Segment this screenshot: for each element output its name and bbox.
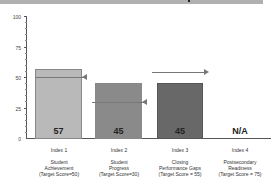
bar-value-label: 45 xyxy=(158,126,202,136)
y-minor-tick xyxy=(25,132,27,133)
x-label-index-2: Index 2 Student Progress (Target Score=3… xyxy=(89,147,149,177)
y-minor-tick xyxy=(25,65,27,66)
y-minor-tick xyxy=(25,101,27,102)
bar-index-1: 57 xyxy=(35,69,82,139)
y-minor-tick xyxy=(25,83,27,84)
y-minor-tick xyxy=(25,59,27,60)
y-minor-tick xyxy=(25,89,27,90)
target-line-index-1 xyxy=(35,77,85,78)
y-tick-label: 100 xyxy=(4,14,21,20)
y-minor-tick xyxy=(25,40,27,41)
y-minor-tick xyxy=(25,34,27,35)
y-tick-label: 0 xyxy=(4,136,21,142)
target-score-label: (Target Score = 75) xyxy=(210,171,270,177)
header-bar xyxy=(0,0,263,4)
bar-index-3: 45 xyxy=(157,83,203,139)
y-minor-tick xyxy=(25,120,27,121)
y-tick-label: 75 xyxy=(4,45,21,51)
bar-value-label-na: N/A xyxy=(215,126,265,136)
y-tick xyxy=(24,47,27,48)
target-line-index-3 xyxy=(152,72,207,73)
y-minor-tick xyxy=(25,22,27,23)
index-label: Index 3 xyxy=(150,147,210,153)
target-arrow-icon xyxy=(82,74,87,80)
y-tick-label: 50 xyxy=(4,75,21,81)
y-minor-tick xyxy=(25,53,27,54)
y-minor-tick xyxy=(25,28,27,29)
y-minor-tick xyxy=(25,126,27,127)
y-minor-tick xyxy=(25,71,27,72)
target-line-index-2 xyxy=(92,102,145,103)
target-arrow-icon xyxy=(204,69,209,75)
index-label: Index 4 xyxy=(210,147,270,153)
y-minor-tick xyxy=(25,114,27,115)
target-arrow-icon xyxy=(142,99,147,105)
y-tick-label: 25 xyxy=(4,106,21,112)
target-score-label: (Target Score = 55) xyxy=(150,171,210,177)
bar-index-2: 45 xyxy=(95,83,142,139)
target-score-label: (Target Score=30) xyxy=(89,171,149,177)
index-label: Index 2 xyxy=(89,147,149,153)
x-label-index-1: Index 1 Student Achievement (Target Scor… xyxy=(29,147,89,177)
y-tick xyxy=(24,108,27,109)
index-label: Index 1 xyxy=(29,147,89,153)
x-label-index-4: Index 4 Postsecondary Readiness (Target … xyxy=(210,147,270,177)
y-tick xyxy=(24,16,27,17)
y-minor-tick xyxy=(25,95,27,96)
target-score-label: (Target Score=50) xyxy=(29,171,89,177)
bar-value-label: 57 xyxy=(36,126,81,136)
header-marker xyxy=(188,0,190,2)
bar-value-label: 45 xyxy=(96,126,141,136)
y-tick xyxy=(24,77,27,78)
x-label-index-3: Index 3 Closing Performance Gaps (Target… xyxy=(150,147,210,177)
